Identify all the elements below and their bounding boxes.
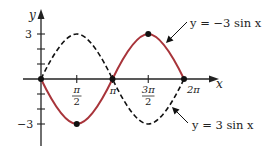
point-min: [74, 121, 80, 127]
y-axis-arrow-icon: [38, 9, 45, 19]
sine-graph: y x 3 −3 π 2 π 3π 2 2π y = −3 sin x y = …: [0, 0, 272, 154]
curve-label-3-sin-x: y = 3 sin x: [191, 118, 254, 132]
point-pi: [110, 76, 116, 82]
x-tick-label-3pi-over-2-den: 2: [145, 96, 151, 107]
point-origin: [38, 76, 44, 82]
point-max: [145, 31, 151, 37]
callout-neg: [166, 22, 187, 43]
x-axis-label: x: [216, 77, 223, 91]
y-tick-label-3: 3: [25, 28, 32, 41]
x-tick-label-pi-over-2-num: π: [72, 84, 80, 95]
y-tick-label-neg-3: −3: [17, 118, 33, 131]
x-tick-label-pi-over-2-den: 2: [74, 96, 80, 107]
y-axis-label: y: [28, 8, 36, 22]
callout-pos: [172, 107, 188, 123]
x-axis: [23, 76, 219, 83]
x-tick-label-3pi-over-2-num: 3π: [142, 84, 155, 95]
point-2pi: [181, 76, 187, 82]
x-tick-label-2pi: 2π: [186, 84, 200, 95]
x-tick-label-pi: π: [109, 85, 117, 96]
curve-label-neg-3-sin-x: y = −3 sin x: [189, 16, 262, 30]
